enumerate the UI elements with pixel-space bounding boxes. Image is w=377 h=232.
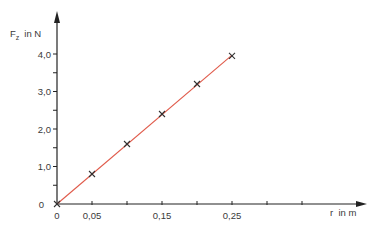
data-point-marker-icon [229, 53, 235, 59]
x-tick-label: 0 [54, 210, 59, 221]
y-tick-label: 3,0 [38, 86, 51, 97]
data-point-marker-icon [124, 141, 130, 147]
tick-marks [53, 54, 302, 205]
y-tick-label: 4,0 [38, 49, 51, 60]
tick-labels: 00,050,150,2501,02,03,04,0 [38, 49, 241, 222]
y-tick-label: 1,0 [38, 161, 51, 172]
chart: 00,050,150,2501,02,03,04,0 Fzin N r in m [0, 0, 377, 232]
x-tick-label: 0,25 [223, 210, 242, 221]
data-point-marker-icon [89, 171, 95, 177]
y-axis-label: Fzin N [10, 28, 41, 41]
x-axis-label: r in m [330, 207, 356, 218]
x-tick-label: 0,15 [153, 210, 172, 221]
data-point-marker-icon [159, 111, 165, 117]
x-tick-label: 0,05 [83, 210, 102, 221]
y-tick-label: 2,0 [38, 124, 51, 135]
fit-line [57, 55, 232, 204]
x-axis-arrow-icon [356, 201, 367, 207]
axes [54, 11, 367, 207]
fit-line-segment [57, 55, 232, 204]
y-tick-label: 0 [39, 199, 44, 210]
data-point-marker-icon [194, 81, 200, 87]
y-axis-arrow-icon [54, 11, 60, 23]
